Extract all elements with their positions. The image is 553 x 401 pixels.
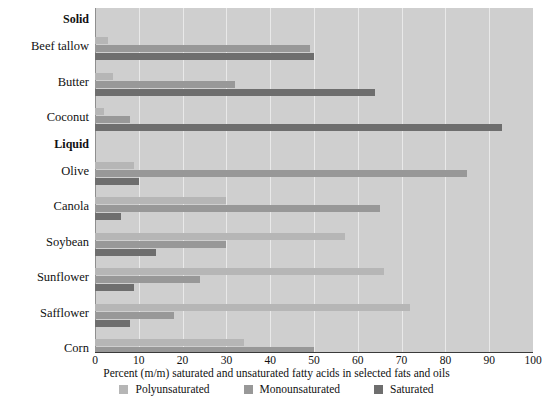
bar-poly: [95, 233, 345, 240]
category-label-soybean: Soybean: [46, 236, 89, 249]
x-tick-label-90: 90: [483, 354, 495, 366]
category-label-olive: Olive: [61, 165, 89, 178]
legend-item-poly: Polyunsaturated: [119, 383, 209, 395]
bar-sat: [95, 284, 134, 291]
bar-mono: [95, 116, 130, 123]
legend-label-sat: Saturated: [390, 383, 433, 395]
bar-sat: [95, 53, 314, 60]
bar-mono: [95, 241, 226, 248]
category-label-corn: Corn: [64, 342, 89, 355]
bar-group-beef-tallow: [95, 30, 533, 66]
bar-poly: [95, 304, 410, 311]
x-tick-label-70: 70: [396, 354, 408, 366]
legend-swatch-poly: [119, 385, 128, 394]
legend-swatch-mono: [244, 385, 253, 394]
bar-rows: [95, 8, 533, 352]
fatty-acid-bar-chart: SolidBeef tallowButterCoconutLiquidOlive…: [0, 0, 553, 401]
group-header-solid: Solid: [63, 13, 89, 26]
group-header-liquid: Liquid: [54, 138, 89, 151]
category-label-column: SolidBeef tallowButterCoconutLiquidOlive…: [0, 8, 89, 352]
chart-legend: PolyunsaturatedMonounsaturatedSaturated: [0, 383, 553, 395]
bar-group-olive: [95, 155, 533, 191]
plot-area: [95, 8, 533, 353]
bar-group-corn: [95, 332, 533, 353]
x-tick-label-20: 20: [177, 354, 189, 366]
x-tick-label-60: 60: [352, 354, 364, 366]
legend-label-mono: Monounsaturated: [260, 383, 340, 395]
bar-sat: [95, 320, 130, 327]
bar-poly: [95, 162, 134, 169]
x-tick-label-40: 40: [264, 354, 276, 366]
legend-label-poly: Polyunsaturated: [135, 383, 209, 395]
x-axis-ticks: 0102030405060708090100: [95, 352, 533, 368]
x-tick-label-10: 10: [133, 354, 145, 366]
x-tick-label-0: 0: [92, 354, 98, 366]
category-label-sunflower: Sunflower: [37, 271, 89, 284]
bar-sat: [95, 178, 139, 185]
bar-mono: [95, 170, 467, 177]
bar-poly: [95, 108, 104, 115]
legend-swatch-sat: [374, 385, 383, 394]
bar-poly: [95, 37, 108, 44]
bar-sat: [95, 89, 375, 96]
bar-mono: [95, 81, 235, 88]
bar-mono: [95, 312, 174, 319]
bar-group-canola: [95, 190, 533, 226]
bar-sat: [95, 213, 121, 220]
bar-mono: [95, 205, 380, 212]
bar-mono: [95, 45, 310, 52]
legend-item-mono: Monounsaturated: [244, 383, 340, 395]
bar-poly: [95, 197, 226, 204]
bar-poly: [95, 339, 244, 346]
x-axis-title: Percent (m/m) saturated and unsaturated …: [0, 367, 553, 380]
bar-group-sunflower: [95, 261, 533, 297]
x-tick-label-30: 30: [221, 354, 233, 366]
bar-sat: [95, 249, 156, 256]
bar-poly: [95, 73, 113, 80]
x-tick-label-80: 80: [440, 354, 452, 366]
category-label-butter: Butter: [58, 76, 89, 89]
bar-poly: [95, 268, 384, 275]
x-tick-label-100: 100: [524, 354, 541, 366]
category-label-canola: Canola: [54, 200, 89, 213]
x-tick-label-50: 50: [308, 354, 320, 366]
bar-group-coconut: [95, 101, 533, 137]
category-label-coconut: Coconut: [47, 111, 89, 124]
category-label-safflower: Safflower: [40, 307, 89, 320]
bar-group-soybean: [95, 226, 533, 262]
category-label-beef-tallow: Beef tallow: [31, 40, 89, 53]
bar-group-safflower: [95, 297, 533, 333]
bar-sat: [95, 124, 502, 131]
bar-group-butter: [95, 66, 533, 102]
legend-item-sat: Saturated: [374, 383, 433, 395]
bar-mono: [95, 276, 200, 283]
